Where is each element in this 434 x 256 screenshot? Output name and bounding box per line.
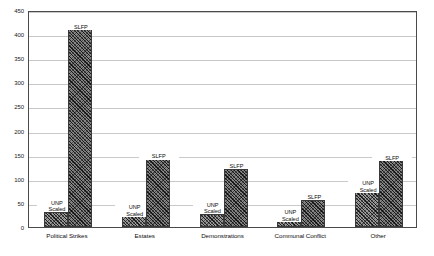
bar-series-label: SLFP bbox=[217, 163, 257, 169]
x-axis: Political StrikesEstatesDemonstrationsCo… bbox=[28, 232, 417, 248]
bar-slfp bbox=[146, 159, 170, 227]
y-axis-tick-label: 300 bbox=[0, 80, 24, 86]
x-axis-tick-label: Communal Conflict bbox=[261, 232, 339, 240]
bar-slfp bbox=[379, 160, 403, 227]
x-axis-tick-label: Political Strikes bbox=[28, 232, 106, 240]
bar-unp-scaled bbox=[200, 214, 224, 228]
plot-area: UNP ScaledSLFPUNP ScaledSLFPUNP ScaledSL… bbox=[28, 11, 417, 228]
y-axis-tick-label: 250 bbox=[0, 104, 24, 110]
bar-series-label: SLFP bbox=[61, 24, 101, 30]
y-axis-tick-label: 200 bbox=[0, 129, 24, 135]
y-axis-tick-label: 50 bbox=[0, 201, 24, 207]
bar-unp-scaled bbox=[122, 216, 146, 227]
bar-slfp bbox=[68, 29, 92, 227]
y-axis-tick-label: 100 bbox=[0, 177, 24, 183]
bar-series-label: SLFP bbox=[294, 194, 334, 200]
y-axis-tick-label: 350 bbox=[0, 56, 24, 62]
bar-unp-scaled bbox=[44, 212, 68, 227]
y-axis-tick-label: 400 bbox=[0, 32, 24, 38]
bar-unp-scaled bbox=[277, 221, 301, 227]
bar-unp-scaled bbox=[355, 192, 379, 227]
x-axis-tick-label: Demonstrations bbox=[184, 232, 262, 240]
y-axis-tick-label: 0 bbox=[0, 225, 24, 231]
bar-chart: 450400350300250200150100500 UNP ScaledSL… bbox=[0, 0, 434, 256]
bar-series-label: SLFP bbox=[139, 153, 179, 159]
x-axis-tick-label: Other bbox=[339, 232, 417, 240]
gridline bbox=[29, 12, 416, 13]
bar-series-label: SLFP bbox=[372, 155, 412, 161]
bar-slfp bbox=[301, 200, 325, 227]
x-axis-tick-label: Estates bbox=[106, 232, 184, 240]
y-axis-tick-label: 450 bbox=[0, 8, 24, 14]
y-axis-tick-label: 150 bbox=[0, 153, 24, 159]
bar-slfp bbox=[224, 169, 248, 227]
plot-inner: UNP ScaledSLFPUNP ScaledSLFPUNP ScaledSL… bbox=[29, 12, 416, 227]
